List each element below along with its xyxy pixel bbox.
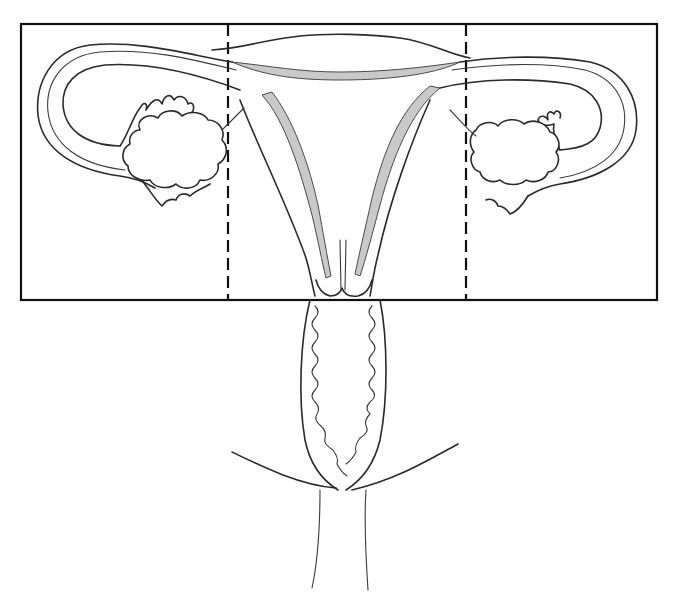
vaginal-rugae-right [346,306,375,464]
right-ovarian-ligament [450,110,476,136]
right-fimbriae-lower [486,196,528,214]
vaginal-rugae-left [312,306,347,476]
vulva-outline [232,444,458,590]
diagram-frame [21,24,657,300]
uterus [212,34,470,296]
right-ovary [470,120,559,185]
left-ovarian-ligament [222,108,244,130]
vagina [301,300,386,490]
left-ovary [123,111,226,188]
anatomy-diagram [0,0,676,601]
